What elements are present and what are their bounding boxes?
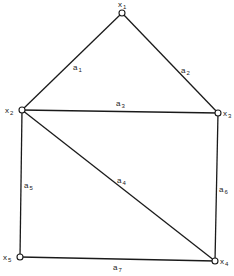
node-label-x5: x5 (3, 253, 12, 263)
edge-a7 (20, 257, 215, 261)
node-x4-circle-icon (212, 258, 218, 264)
node-label-x1: x1 (118, 0, 127, 10)
graph-diagram: a1a2a3a4a5a6a7 x1x2x3x4x5 (0, 0, 234, 276)
edge-label-a1: a1 (73, 63, 82, 73)
node-x5-circle-icon (17, 254, 23, 260)
nodes-group (17, 10, 221, 264)
node-x2-circle-icon (19, 107, 25, 113)
edge-labels-group: a1a2a3a4a5a6a7 (24, 63, 228, 273)
node-x1-circle-icon (119, 10, 125, 16)
edge-label-a7: a7 (113, 263, 122, 273)
edge-label-a6: a6 (219, 185, 228, 195)
edge-label-a4: a4 (117, 176, 126, 186)
node-labels-group: x1x2x3x4x5 (3, 0, 232, 267)
edges-group (20, 13, 218, 261)
edge-a1 (22, 13, 122, 110)
edge-a6 (215, 113, 218, 261)
node-label-x3: x3 (223, 109, 232, 119)
edge-label-a2: a2 (181, 66, 190, 76)
node-label-x4: x4 (220, 257, 229, 267)
edge-label-a5: a5 (24, 181, 33, 191)
node-label-x2: x2 (5, 106, 14, 116)
edge-a5 (20, 110, 22, 257)
edge-label-a3: a3 (116, 99, 125, 109)
edge-a2 (122, 13, 218, 113)
node-x3-circle-icon (215, 110, 221, 116)
edge-a4 (22, 110, 215, 261)
edge-a3 (22, 110, 218, 113)
